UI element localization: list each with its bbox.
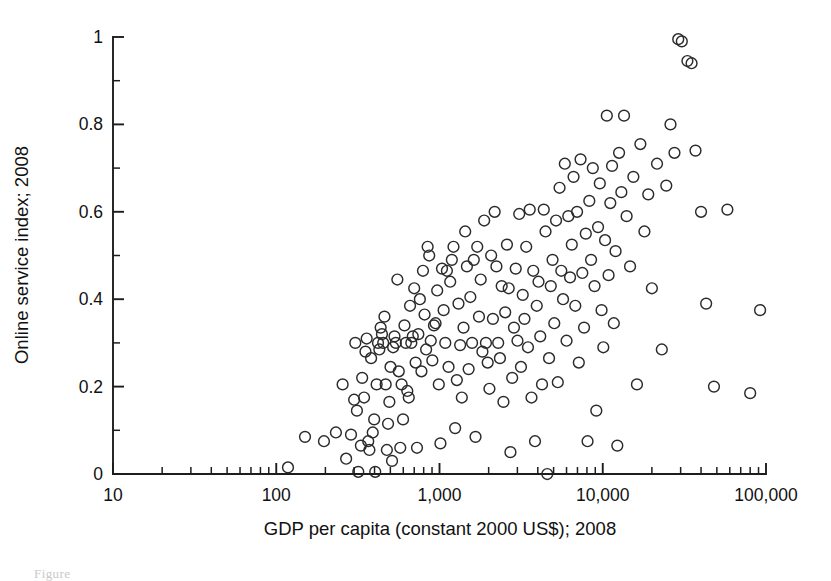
data-point	[357, 372, 368, 383]
data-point	[690, 145, 701, 156]
figure-container: 101001,00010,000100,000 00.20.40.60.81 G…	[0, 0, 831, 581]
figure-caption-fragment: Figure	[34, 566, 70, 581]
data-point	[350, 338, 361, 349]
data-point	[584, 195, 595, 206]
data-point	[608, 318, 619, 329]
data-point	[468, 254, 479, 265]
data-point	[446, 254, 457, 265]
data-point	[745, 388, 756, 399]
data-point	[474, 311, 485, 322]
data-point	[612, 440, 623, 451]
data-point	[300, 431, 311, 442]
data-point	[509, 322, 520, 333]
data-point	[360, 346, 371, 357]
data-point	[384, 396, 395, 407]
data-point	[472, 241, 483, 252]
data-point	[367, 427, 378, 438]
data-point	[535, 331, 546, 342]
data-point	[381, 445, 392, 456]
data-point	[403, 392, 414, 403]
data-point	[632, 379, 643, 390]
data-point	[361, 333, 372, 344]
data-point	[533, 276, 544, 287]
data-point	[425, 335, 436, 346]
data-point	[418, 265, 429, 276]
data-point	[493, 338, 504, 349]
x-axis-label: GDP per capita (constant 2000 US$); 2008	[264, 518, 616, 539]
data-point	[451, 375, 462, 386]
data-point	[392, 274, 403, 285]
data-point	[455, 340, 466, 351]
data-point	[607, 161, 618, 172]
data-point	[524, 204, 535, 215]
data-point	[582, 436, 593, 447]
data-point	[621, 211, 632, 222]
data-point	[554, 182, 565, 193]
data-point	[565, 272, 576, 283]
data-point	[577, 268, 588, 279]
data-point	[544, 353, 555, 364]
data-point	[521, 241, 532, 252]
data-point	[619, 110, 630, 121]
data-point	[575, 154, 586, 165]
data-point	[484, 383, 495, 394]
data-point	[701, 298, 712, 309]
data-point	[589, 281, 600, 292]
x-tick-label: 10	[103, 485, 123, 505]
data-point	[405, 300, 416, 311]
data-point	[486, 250, 497, 261]
data-point	[755, 305, 766, 316]
x-tick-label: 10,000	[576, 485, 630, 505]
data-point	[558, 294, 569, 305]
y-tick-label: 0.2	[79, 377, 103, 397]
data-point	[696, 206, 707, 217]
data-point	[598, 342, 609, 353]
data-point	[570, 300, 581, 311]
data-point	[528, 265, 539, 276]
data-point	[519, 313, 530, 324]
data-point	[438, 305, 449, 316]
data-point	[628, 171, 639, 182]
data-point	[352, 405, 363, 416]
data-point	[516, 362, 527, 373]
data-point	[593, 222, 604, 233]
data-point	[283, 462, 294, 473]
y-axis-label: Online service index; 2008	[11, 146, 32, 364]
data-point	[616, 187, 627, 198]
x-tick-label-layer: 101001,00010,000100,000	[103, 485, 798, 505]
data-point	[549, 318, 560, 329]
data-point	[722, 204, 733, 215]
data-point	[568, 171, 579, 182]
data-point	[551, 215, 562, 226]
data-point	[445, 276, 456, 287]
data-point	[514, 209, 525, 220]
data-point	[432, 285, 443, 296]
data-point	[669, 147, 680, 158]
data-point	[503, 283, 514, 294]
data-point	[531, 300, 542, 311]
data-point	[552, 377, 563, 388]
data-point	[643, 189, 654, 200]
data-point	[639, 226, 650, 237]
data-point	[603, 270, 614, 281]
data-point	[665, 119, 676, 130]
y-tick-label: 0	[93, 464, 103, 484]
data-point	[456, 392, 467, 403]
data-point	[495, 353, 506, 364]
data-point	[561, 335, 572, 346]
data-point	[545, 281, 556, 292]
y-tick-label: 1	[93, 27, 103, 47]
data-point	[547, 254, 558, 265]
data-point	[587, 163, 598, 174]
data-point	[676, 36, 687, 47]
data-point	[482, 357, 493, 368]
data-point	[385, 362, 396, 373]
data-point	[512, 335, 523, 346]
axes-layer	[113, 37, 766, 474]
data-point	[435, 438, 446, 449]
data-point	[359, 392, 370, 403]
data-point	[383, 418, 394, 429]
data-point	[443, 362, 454, 373]
data-point	[610, 246, 621, 257]
data-point	[635, 139, 646, 150]
